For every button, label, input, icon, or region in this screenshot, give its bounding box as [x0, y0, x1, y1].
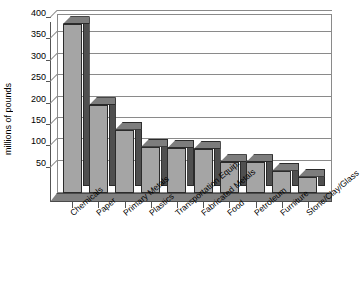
bar-top-face [246, 154, 273, 162]
bar [63, 24, 82, 193]
bar-top-face [167, 140, 194, 148]
x-tick-mark [256, 202, 257, 208]
x-tick-mark [229, 202, 230, 208]
bar-front-face [115, 130, 134, 193]
bar [115, 130, 134, 193]
bar [89, 105, 108, 193]
x-tick-mark [308, 202, 309, 208]
bar-top-face [194, 141, 221, 149]
bar-front-face [167, 148, 186, 193]
x-tick-mark [151, 202, 152, 208]
x-tick-mark [203, 202, 204, 208]
x-tick-mark [125, 202, 126, 208]
bar-top-face [89, 97, 116, 105]
bar [167, 148, 186, 193]
x-tick-mark [98, 202, 99, 208]
x-tick-mark [177, 202, 178, 208]
x-tick-mark [72, 202, 73, 208]
x-tick-mark [282, 202, 283, 208]
bar-top-face [141, 139, 168, 147]
bar-top-face [272, 163, 299, 171]
bar-top-face [115, 122, 142, 130]
bar-top-face [298, 169, 325, 177]
bar-front-face [63, 24, 82, 193]
bar-front-face [89, 105, 108, 193]
bar-top-face [63, 16, 90, 24]
